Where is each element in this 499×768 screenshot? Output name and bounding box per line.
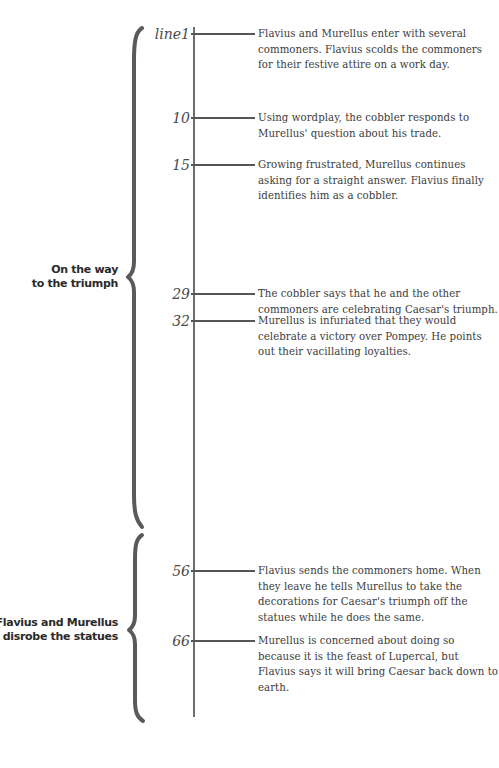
event-description: Growing frustrated, Murellus continues a…: [258, 157, 498, 204]
line-number-label: 15: [172, 158, 190, 172]
line-number-label: line1: [155, 27, 190, 41]
line-number-label: 29: [172, 287, 190, 301]
connector-line: [194, 164, 255, 166]
brace-flavius-and-murellus-disrobe-the-statues: [129, 535, 143, 721]
section-label-line: disrobe the statues: [0, 630, 118, 644]
section-label-line: On the way: [32, 263, 118, 277]
event-description: Murellus is infuriated that they would c…: [258, 313, 498, 360]
line-number-label: 66: [172, 634, 190, 648]
scene-timeline-diagram: On the way to the triumph Flavius and Mu…: [0, 0, 499, 768]
connector-line: [194, 640, 255, 642]
connector-line: [194, 33, 255, 35]
connector-line: [194, 117, 255, 119]
line-number-label: 10: [172, 111, 190, 125]
brace-on-the-way-to-the-triumph: [128, 28, 142, 527]
section-label-line: to the triumph: [32, 277, 118, 291]
event-description: Using wordplay, the cobbler responds to …: [258, 110, 498, 141]
connector-line: [194, 320, 255, 322]
event-description: Flavius and Murellus enter with several …: [258, 26, 498, 73]
event-description: Murellus is concerned about doing so bec…: [258, 633, 498, 695]
section-label-line: Flavius and Murellus: [0, 616, 118, 630]
connector-line: [194, 570, 255, 572]
line-number-label: 32: [172, 314, 190, 328]
connector-line: [194, 293, 255, 295]
event-description: Flavius sends the commoners home. When t…: [258, 563, 498, 625]
section-label-on-the-way: On the way to the triumph: [32, 263, 118, 291]
timeline-axis: [193, 27, 195, 717]
line-number-label: 56: [172, 564, 190, 578]
section-label-disrobe-statues: Flavius and Murellus disrobe the statues: [0, 616, 118, 644]
